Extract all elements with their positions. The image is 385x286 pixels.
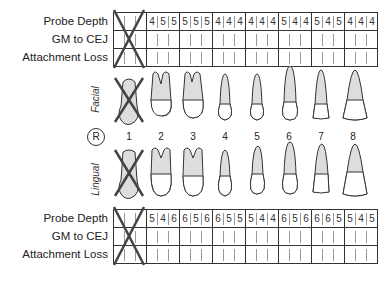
site-value[interactable] bbox=[300, 249, 311, 261]
tooth-1-probe-depth-cell[interactable] bbox=[114, 13, 147, 31]
site-value[interactable]: 5 bbox=[234, 213, 245, 225]
site-value[interactable]: 5 bbox=[366, 213, 377, 225]
tooth-1-attachment-loss-cell[interactable] bbox=[114, 246, 147, 264]
site-value[interactable] bbox=[135, 34, 146, 46]
tooth-7-gm-to-cej-cell[interactable] bbox=[312, 228, 345, 246]
site-value[interactable] bbox=[180, 231, 190, 243]
site-value[interactable] bbox=[223, 52, 234, 64]
site-value[interactable] bbox=[147, 249, 157, 261]
site-value[interactable]: 5 bbox=[223, 213, 234, 225]
site-value[interactable] bbox=[124, 52, 135, 64]
tooth-2-probe-depth-cell[interactable]: 455 bbox=[147, 13, 180, 31]
tooth-5-attachment-loss-cell[interactable] bbox=[246, 246, 279, 264]
site-value[interactable]: 5 bbox=[345, 213, 355, 225]
site-value[interactable] bbox=[246, 52, 256, 64]
site-value[interactable] bbox=[135, 52, 146, 64]
site-value[interactable] bbox=[157, 249, 168, 261]
site-value[interactable]: 5 bbox=[333, 213, 344, 225]
tooth-4-probe-depth-cell[interactable]: 655 bbox=[213, 210, 246, 228]
site-value[interactable]: 5 bbox=[246, 213, 256, 225]
tooth-4-gm-to-cej-cell[interactable] bbox=[213, 228, 246, 246]
site-value[interactable]: 5 bbox=[333, 16, 344, 28]
site-value[interactable] bbox=[157, 231, 168, 243]
site-value[interactable] bbox=[312, 52, 322, 64]
site-value[interactable] bbox=[366, 34, 377, 46]
site-value[interactable] bbox=[180, 34, 190, 46]
site-value[interactable] bbox=[246, 34, 256, 46]
site-value[interactable] bbox=[289, 249, 300, 261]
site-value[interactable] bbox=[135, 16, 146, 28]
tooth-4-attachment-loss-cell[interactable] bbox=[213, 246, 246, 264]
site-value[interactable] bbox=[300, 34, 311, 46]
site-value[interactable] bbox=[223, 34, 234, 46]
site-value[interactable] bbox=[135, 213, 146, 225]
site-value[interactable] bbox=[157, 52, 168, 64]
site-value[interactable] bbox=[279, 34, 289, 46]
site-value[interactable]: 4 bbox=[300, 16, 311, 28]
tooth-3-probe-depth-cell[interactable]: 555 bbox=[180, 13, 213, 31]
site-value[interactable] bbox=[201, 249, 212, 261]
site-value[interactable]: 4 bbox=[355, 16, 366, 28]
site-value[interactable] bbox=[322, 249, 333, 261]
site-value[interactable]: 6 bbox=[300, 213, 311, 225]
site-value[interactable] bbox=[300, 52, 311, 64]
site-value[interactable] bbox=[312, 231, 322, 243]
tooth-4-attachment-loss-cell[interactable] bbox=[213, 49, 246, 67]
site-value[interactable] bbox=[190, 231, 201, 243]
tooth-3-attachment-loss-cell[interactable] bbox=[180, 246, 213, 264]
site-value[interactable] bbox=[300, 231, 311, 243]
site-value[interactable]: 4 bbox=[267, 16, 278, 28]
site-value[interactable] bbox=[114, 231, 124, 243]
tooth-7-attachment-loss-cell[interactable] bbox=[312, 246, 345, 264]
site-value[interactable] bbox=[223, 231, 234, 243]
tooth-6-attachment-loss-cell[interactable] bbox=[279, 246, 312, 264]
site-value[interactable]: 4 bbox=[267, 213, 278, 225]
site-value[interactable]: 5 bbox=[289, 213, 300, 225]
tooth-4-gm-to-cej-cell[interactable] bbox=[213, 31, 246, 49]
site-value[interactable] bbox=[213, 52, 223, 64]
tooth-2-probe-depth-cell[interactable]: 546 bbox=[147, 210, 180, 228]
site-value[interactable]: 5 bbox=[312, 16, 322, 28]
site-value[interactable] bbox=[114, 249, 124, 261]
tooth-2-attachment-loss-cell[interactable] bbox=[147, 246, 180, 264]
tooth-3-gm-to-cej-cell[interactable] bbox=[180, 228, 213, 246]
site-value[interactable] bbox=[345, 231, 355, 243]
site-value[interactable] bbox=[267, 249, 278, 261]
site-value[interactable] bbox=[190, 249, 201, 261]
site-value[interactable] bbox=[124, 231, 135, 243]
site-value[interactable]: 6 bbox=[312, 213, 322, 225]
site-value[interactable]: 6 bbox=[213, 213, 223, 225]
site-value[interactable] bbox=[124, 213, 135, 225]
site-value[interactable] bbox=[355, 249, 366, 261]
site-value[interactable]: 5 bbox=[147, 213, 157, 225]
site-value[interactable] bbox=[345, 52, 355, 64]
site-value[interactable] bbox=[312, 34, 322, 46]
tooth-7-attachment-loss-cell[interactable] bbox=[312, 49, 345, 67]
tooth-5-probe-depth-cell[interactable]: 444 bbox=[246, 13, 279, 31]
site-value[interactable] bbox=[168, 34, 179, 46]
site-value[interactable]: 6 bbox=[322, 213, 333, 225]
tooth-6-gm-to-cej-cell[interactable] bbox=[279, 31, 312, 49]
site-value[interactable] bbox=[345, 34, 355, 46]
site-value[interactable] bbox=[190, 52, 201, 64]
site-value[interactable]: 4 bbox=[246, 16, 256, 28]
site-value[interactable]: 4 bbox=[256, 213, 267, 225]
site-value[interactable]: 4 bbox=[345, 16, 355, 28]
site-value[interactable] bbox=[267, 52, 278, 64]
site-value[interactable] bbox=[234, 231, 245, 243]
site-value[interactable] bbox=[201, 52, 212, 64]
tooth-8-gm-to-cej-cell[interactable] bbox=[345, 228, 378, 246]
tooth-5-attachment-loss-cell[interactable] bbox=[246, 49, 279, 67]
site-value[interactable]: 6 bbox=[279, 213, 289, 225]
site-value[interactable] bbox=[289, 231, 300, 243]
site-value[interactable] bbox=[114, 34, 124, 46]
site-value[interactable]: 4 bbox=[355, 213, 366, 225]
site-value[interactable] bbox=[289, 34, 300, 46]
site-value[interactable]: 4 bbox=[213, 16, 223, 28]
site-value[interactable] bbox=[279, 52, 289, 64]
site-value[interactable] bbox=[267, 34, 278, 46]
site-value[interactable] bbox=[180, 52, 190, 64]
tooth-3-attachment-loss-cell[interactable] bbox=[180, 49, 213, 67]
site-value[interactable] bbox=[355, 52, 366, 64]
site-value[interactable] bbox=[124, 16, 135, 28]
